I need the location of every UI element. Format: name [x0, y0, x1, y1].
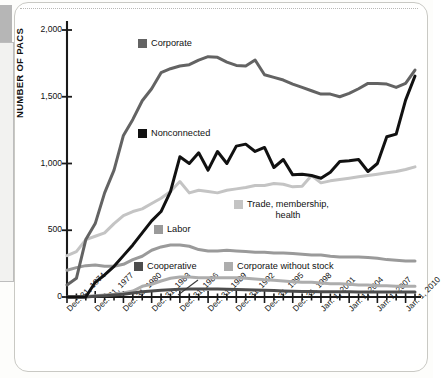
legend-label: Corporate: [151, 38, 192, 49]
legend-swatch-icon: [154, 225, 163, 234]
legend-label: Nonconnected: [151, 128, 210, 139]
legend-swatch-icon: [138, 129, 147, 138]
legend-item-labor[interactable]: Labor: [154, 224, 191, 235]
legend-item-corporate-without-stock[interactable]: Corporate without stock: [224, 261, 334, 272]
legend-item-nonconnected[interactable]: Nonconnected: [138, 128, 210, 139]
legend-label: Cooperative: [147, 261, 197, 272]
legend-label: Labor: [167, 224, 191, 235]
legend-swatch-icon: [138, 39, 147, 48]
legend-swatch-icon: [134, 262, 143, 271]
legend-label: Corporate without stock: [237, 261, 334, 272]
legend-item-cooperative[interactable]: Cooperative: [134, 261, 197, 272]
legend-item-trade-membership-health[interactable]: Trade, membership, health: [234, 199, 329, 221]
legend-label: Trade, membership, health: [247, 199, 329, 221]
legend-swatch-icon: [234, 200, 243, 209]
legend-item-corporate[interactable]: Corporate: [138, 38, 192, 49]
legend-swatch-icon: [224, 262, 233, 271]
